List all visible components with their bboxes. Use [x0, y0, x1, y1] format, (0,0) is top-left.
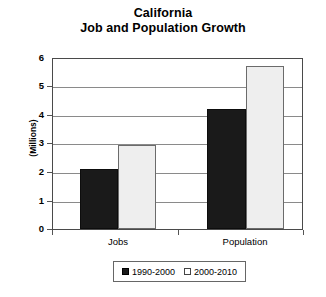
y-tick-label-2: 2 [14, 167, 44, 177]
x-tick-middle [178, 230, 179, 235]
y-tick-label-0: 0 [14, 224, 44, 234]
legend-item-2000-2010: 2000-2010 [184, 267, 237, 277]
x-category-label-jobs: Jobs [78, 236, 158, 247]
y-tick-label-6: 6 [14, 53, 44, 63]
dark-square-icon [122, 268, 129, 275]
bar-population-1990-2000 [207, 109, 246, 229]
x-tick-right [303, 230, 304, 235]
light-square-icon [184, 268, 191, 275]
x-tick-left [52, 230, 53, 235]
chart-title-line-1: California [0, 6, 326, 21]
y-tick-label-4: 4 [14, 110, 44, 120]
bar-jobs-2000-2010 [118, 145, 156, 229]
bar-jobs-1990-2000 [80, 169, 118, 229]
x-category-label-population: Population [205, 236, 285, 247]
bar-chart: California Job and Population Growth (Mi… [0, 0, 326, 297]
legend-item-1990-2000: 1990-2000 [122, 267, 175, 277]
y-tick-label-1: 1 [14, 196, 44, 206]
chart-title-line-2: Job and Population Growth [0, 21, 326, 36]
plot-area [52, 58, 303, 230]
legend-label-2000-2010: 2000-2010 [194, 267, 237, 277]
chart-legend: 1990-2000 2000-2010 [113, 261, 246, 282]
y-tick-label-3: 3 [14, 138, 44, 148]
legend-label-1990-2000: 1990-2000 [132, 267, 175, 277]
bar-population-2000-2010 [246, 66, 284, 229]
chart-title: California Job and Population Growth [0, 6, 326, 36]
y-tick-label-5: 5 [14, 81, 44, 91]
